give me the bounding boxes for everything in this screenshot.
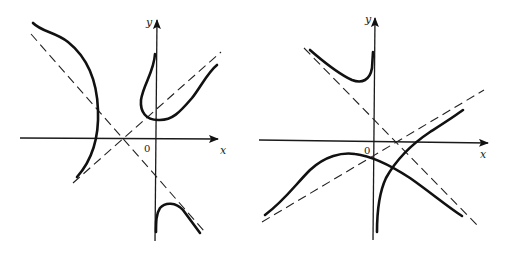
- right-branch-hump: [265, 154, 462, 216]
- right-x-label: x: [480, 148, 487, 161]
- left-x-label: x: [220, 144, 227, 157]
- left-x-axis: [20, 138, 218, 139]
- right-graph: x y 0: [259, 13, 488, 240]
- right-asymptote-descending: [304, 48, 477, 225]
- right-branch-upper-left: [310, 50, 373, 82]
- right-y-label: y: [364, 13, 372, 26]
- left-origin-label: 0: [144, 143, 150, 154]
- left-branch-upper-right: [141, 54, 217, 120]
- left-y-label: y: [145, 16, 153, 29]
- right-origin-label: 0: [364, 145, 370, 156]
- figure-canvas: x y 0 x y 0: [0, 0, 509, 260]
- left-asymptote-descending: [31, 34, 205, 232]
- left-graph: x y 0: [20, 16, 227, 241]
